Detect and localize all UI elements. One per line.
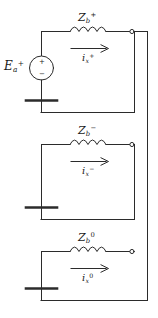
zero-impedance-sup: 0 [91,231,95,239]
pos-current-sup: + [89,52,94,59]
neg-impedance-var: Z [78,124,86,137]
zero-open-terminal-node [130,249,134,253]
zero-impedance-sub: b [86,237,90,245]
source-label-var: E [4,59,13,73]
source-label: Ea+ [4,60,24,74]
circuit-diagram: + − Ea+ Zb+ ix+ Zb− ix− Zb0 ix0 [0,0,158,318]
neg-inductor-coil [70,140,106,145]
zero-current-label: ix0 [82,273,93,284]
neg-open-terminal-node [130,142,134,146]
pos-impedance-var: Z [78,11,86,24]
zero-impedance-var: Z [78,231,86,244]
zero-inductor-coil [70,247,106,252]
pos-inductor-coil [70,27,106,32]
neg-current-sup: − [89,165,94,172]
zero-impedance-label: Zb0 [78,232,95,245]
neg-impedance-sub: b [86,130,90,138]
neg-current-label: ix− [82,166,94,177]
source-label-sup: + [18,59,24,68]
neg-impedance-label: Zb− [78,125,96,138]
zero-current-sup: 0 [89,272,93,279]
neg-impedance-sup: − [91,124,97,132]
source-minus-sign: − [39,71,45,78]
source-label-sub: a [13,65,17,74]
pos-current-label: ix+ [82,53,94,64]
pos-open-terminal-node [130,29,134,33]
pos-impedance-sup: + [91,11,97,19]
pos-impedance-sub: b [86,17,90,25]
circuit-schematic-canvas [0,0,158,318]
pos-impedance-label: Zb+ [78,12,96,25]
source-plus-sign: + [39,59,45,66]
